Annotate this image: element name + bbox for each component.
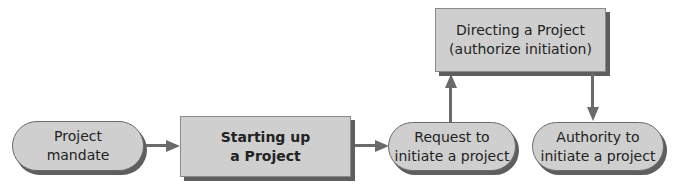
node-label-line1: Request to — [414, 128, 489, 147]
node-authority-to-initiate: Authority to initiate a project — [532, 122, 664, 171]
node-label-line1: Authority to — [556, 128, 639, 147]
arrow-directing-to-authority-line — [591, 73, 594, 109]
arrow-down-icon — [587, 107, 599, 121]
node-label-line1: Starting up — [221, 128, 310, 147]
node-label-line2: (authorize initiation) — [449, 40, 592, 59]
node-label-line1: Project — [54, 127, 102, 146]
arrow-right-icon — [375, 140, 389, 152]
arrow-mandate-to-startup-line — [146, 144, 168, 147]
node-label-line1: Directing a Project — [456, 21, 585, 40]
node-project-mandate: Project mandate — [12, 121, 144, 171]
node-directing-a-project: Directing a Project (authorize initiatio… — [435, 8, 606, 72]
node-label-line2: mandate — [47, 146, 110, 165]
node-starting-up-a-project: Starting up a Project — [180, 116, 351, 177]
arrow-right-icon — [166, 140, 180, 152]
node-label-line2: initiate a project — [395, 147, 510, 166]
node-request-to-initiate: Request to initiate a project — [388, 122, 516, 171]
node-label-line2: initiate a project — [541, 147, 656, 166]
arrow-up-icon — [445, 74, 457, 88]
arrow-startup-to-request-line — [355, 144, 377, 147]
arrow-request-to-directing-line — [449, 86, 452, 122]
node-label-line2: a Project — [230, 147, 300, 166]
